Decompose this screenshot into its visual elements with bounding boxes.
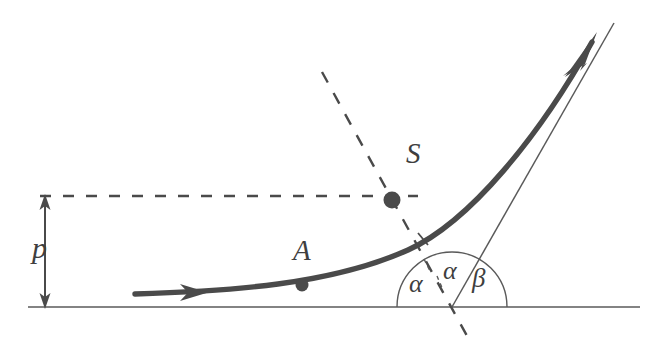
label-alpha-left: α <box>409 271 423 297</box>
label-S: S <box>406 139 421 168</box>
figure-container: p S A α α β <box>0 0 661 347</box>
point-S-dot <box>384 192 401 209</box>
curved-trajectory <box>135 42 592 294</box>
figure-canvas <box>0 0 661 347</box>
label-p: p <box>32 233 47 263</box>
label-beta: β <box>472 265 485 292</box>
label-A: A <box>293 236 311 265</box>
label-alpha-right: α <box>443 258 457 284</box>
point-A-dot <box>296 279 309 292</box>
